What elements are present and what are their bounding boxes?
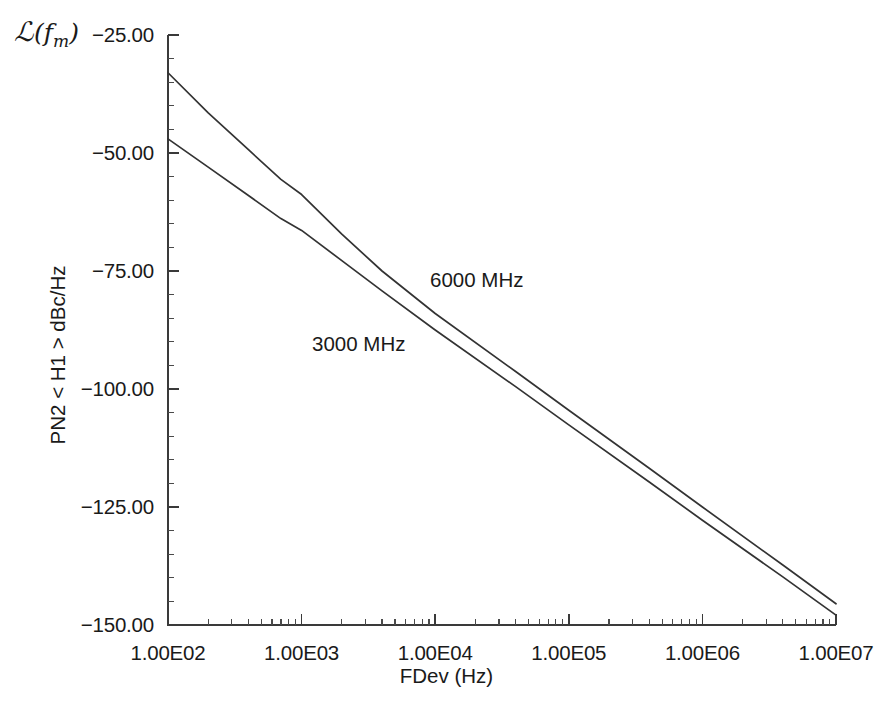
x-tick-label: 1.00E06 bbox=[665, 641, 740, 665]
axis-lines bbox=[168, 35, 836, 625]
y-tick-label: −75.00 bbox=[92, 259, 154, 283]
series-line-6000-mhz bbox=[168, 73, 836, 604]
y-tick-label: −150.00 bbox=[81, 613, 154, 637]
plot-canvas bbox=[0, 0, 893, 710]
series-annotation-6000-mhz: 6000 MHz bbox=[430, 268, 523, 292]
y-tick-label: −50.00 bbox=[92, 141, 154, 165]
x-tick-label: 1.00E03 bbox=[264, 641, 339, 665]
x-tick-label: 1.00E02 bbox=[131, 641, 206, 665]
ticks-group bbox=[168, 35, 836, 625]
series-line-3000-mhz bbox=[168, 139, 836, 615]
y-tick-label: −25.00 bbox=[92, 23, 154, 47]
axes-group bbox=[168, 35, 836, 625]
y-axis-title-text: PN2 < H1 > dBc/Hz bbox=[46, 266, 70, 445]
series-annotation-3000-mhz: 3000 MHz bbox=[312, 332, 405, 356]
series-group bbox=[168, 73, 836, 615]
y-axis-title: PN2 < H1 > dBc/Hz bbox=[44, 0, 72, 710]
x-tick-label: 1.00E04 bbox=[398, 641, 473, 665]
x-tick-label: 1.00E05 bbox=[531, 641, 606, 665]
x-axis-title: FDev (Hz) bbox=[0, 664, 893, 688]
x-tick-label: 1.00E07 bbox=[799, 641, 874, 665]
phase-noise-chart: ℒ(fm) −25.00−50.00−75.00−100.00−125.00−1… bbox=[0, 0, 893, 710]
y-tick-label: −100.00 bbox=[81, 377, 154, 401]
y-tick-label: −125.00 bbox=[81, 495, 154, 519]
